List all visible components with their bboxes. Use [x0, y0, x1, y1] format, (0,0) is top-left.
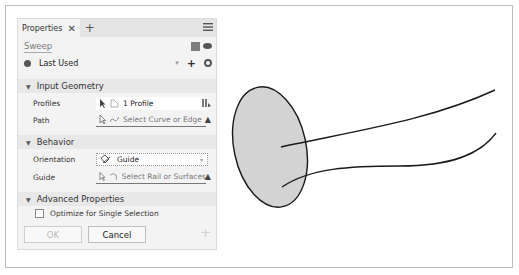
close-icon[interactable]: ✕: [67, 23, 75, 34]
orientation-label: Orientation: [33, 155, 75, 164]
section-title: Input Geometry: [37, 81, 104, 91]
orientation-dropdown[interactable]: Guide ▾: [96, 153, 208, 166]
section-input-geometry[interactable]: ▼ Input Geometry: [18, 79, 216, 93]
profile-ellipse[interactable]: [230, 80, 318, 214]
preset-dropdown[interactable]: Last Used ▾ +: [22, 56, 212, 70]
section-advanced-properties[interactable]: ▼ Advanced Properties: [18, 192, 216, 206]
rail-icon: [109, 172, 117, 181]
select-arrow-icon: [99, 99, 106, 108]
add-button[interactable]: +: [200, 225, 211, 240]
chevron-down-icon: ▾: [200, 156, 203, 163]
preset-icon: [24, 60, 31, 67]
profiles-value: 1 Profile: [123, 99, 153, 108]
add-tab-icon[interactable]: +: [85, 21, 95, 35]
section-title: Advanced Properties: [37, 194, 125, 204]
curve-icon: [110, 115, 119, 124]
warning-icon: ▲: [205, 172, 211, 181]
eye-icon[interactable]: [203, 43, 212, 49]
select-arrow-icon: [99, 172, 105, 181]
path-curve[interactable]: [281, 90, 495, 147]
path-row: Path Select Curve or Edge ▲: [18, 112, 216, 128]
optimize-label: Optimize for Single Selection: [50, 209, 159, 218]
chain-icon[interactable]: [202, 98, 211, 108]
hamburger-menu-icon[interactable]: [203, 22, 213, 32]
profile-icon: [110, 99, 119, 108]
guide-selector[interactable]: Select Rail or Surfaces: [96, 171, 206, 184]
profiles-label: Profiles: [33, 99, 60, 108]
cube-icon[interactable]: [191, 42, 200, 51]
section-title: Behavior: [37, 137, 75, 147]
path-label: Path: [33, 116, 49, 125]
feature-title[interactable]: Sweep: [24, 41, 52, 53]
section-behavior[interactable]: ▼ Behavior: [18, 135, 216, 149]
guide-curve[interactable]: [282, 133, 496, 187]
panel-titlebar: Properties ✕ +: [18, 19, 216, 37]
guide-row: Guide Select Rail or Surfaces ▲: [18, 169, 216, 185]
ok-button[interactable]: OK: [24, 226, 82, 243]
warning-icon: ▲: [205, 115, 211, 124]
chevron-down-icon[interactable]: ▾: [175, 59, 179, 67]
orientation-value: Guide: [117, 155, 139, 164]
tab-label: Properties: [22, 24, 62, 33]
collapse-triangle-icon: ▼: [26, 83, 31, 90]
graphics-canvas[interactable]: [230, 6, 512, 267]
path-selector[interactable]: Select Curve or Edge: [96, 114, 206, 127]
gear-icon[interactable]: [204, 59, 212, 67]
cancel-button[interactable]: Cancel: [88, 226, 146, 243]
preset-label: Last Used: [39, 59, 175, 68]
path-placeholder: Select Curve or Edge: [123, 115, 202, 124]
optimize-checkbox[interactable]: [35, 209, 44, 218]
profiles-selector[interactable]: 1 Profile: [96, 97, 206, 110]
properties-panel: Properties ✕ + Sweep Last Used ▾ + ▼ Inp…: [17, 18, 217, 250]
collapse-triangle-icon: ▼: [26, 196, 31, 203]
orientation-row: Orientation Guide ▾: [18, 151, 216, 167]
guide-label: Guide: [33, 173, 55, 182]
select-arrow-icon: [99, 115, 106, 124]
profiles-row: Profiles 1 Profile: [18, 95, 216, 111]
guide-placeholder: Select Rail or Surfaces: [122, 172, 206, 181]
add-preset-button[interactable]: +: [187, 57, 196, 70]
tab-properties[interactable]: Properties ✕: [18, 19, 80, 37]
collapse-triangle-icon: ▼: [26, 139, 31, 146]
guide-icon: [100, 154, 111, 165]
